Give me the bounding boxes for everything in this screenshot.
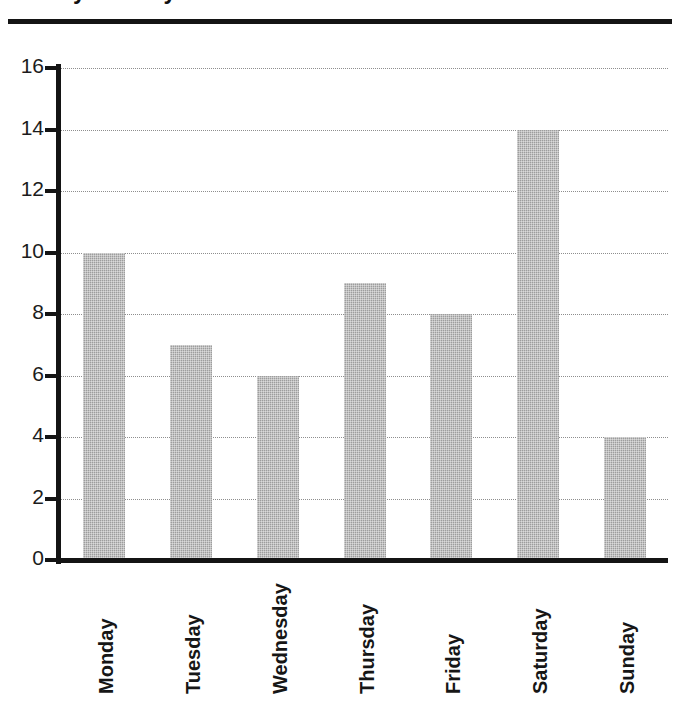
chart-title-clipped: Daily Activity [0,0,682,8]
y-axis-tick-mark [45,189,57,193]
x-axis-tick-label-text: Sunday [616,622,639,694]
plot-area [61,68,668,560]
y-axis-tick-label: 12 [0,177,44,201]
bar [83,253,125,561]
y-axis-tick-label: 16 [0,54,44,78]
y-axis-tick-mark [45,435,57,439]
x-axis-tick-label-text: Tuesday [182,614,205,694]
bar [170,345,212,560]
y-axis-tick-label: 4 [0,423,44,447]
y-axis-tick-mark [45,312,57,316]
y-axis-tick-label: 8 [0,300,44,324]
y-axis-tick-label: 2 [0,485,44,509]
gridline [61,191,668,192]
y-axis-tick-label: 0 [0,546,44,570]
x-axis-tick-label-text: Wednesday [269,583,292,694]
gridline [61,68,668,69]
y-axis-tick-mark [45,497,57,501]
y-axis-tick-mark [45,374,57,378]
bar [344,283,386,560]
x-axis-line [56,558,668,563]
y-axis-tick-label: 14 [0,116,44,140]
x-axis-tick-label-text: Monday [95,618,118,694]
y-axis-tick-labels: 0246810121416 [0,0,44,701]
y-axis-tick-label: 6 [0,362,44,386]
header-divider-rule [8,19,672,24]
x-axis-tick-labels: MondayTuesdayWednesdayThursdayFridaySatu… [61,566,668,701]
bar [517,130,559,561]
bar [430,314,472,560]
x-axis-tick-label-text: Saturday [529,608,552,694]
y-axis-tick-label: 10 [0,239,44,263]
bar [604,437,646,560]
y-axis-tick-mark [45,558,57,562]
y-axis-tick-mark [45,251,57,255]
gridline [61,253,668,254]
x-axis-tick-label-text: Thursday [356,604,379,694]
bar [257,376,299,561]
bar-chart-figure: Daily Activity 0246810121416 MondayTuesd… [0,0,682,701]
chart-title-text: Daily Activity [30,0,176,5]
y-axis-tick-mark [45,128,57,132]
gridline [61,130,668,131]
x-axis-tick-label-text: Friday [442,634,465,694]
y-axis-tick-mark [45,66,57,70]
